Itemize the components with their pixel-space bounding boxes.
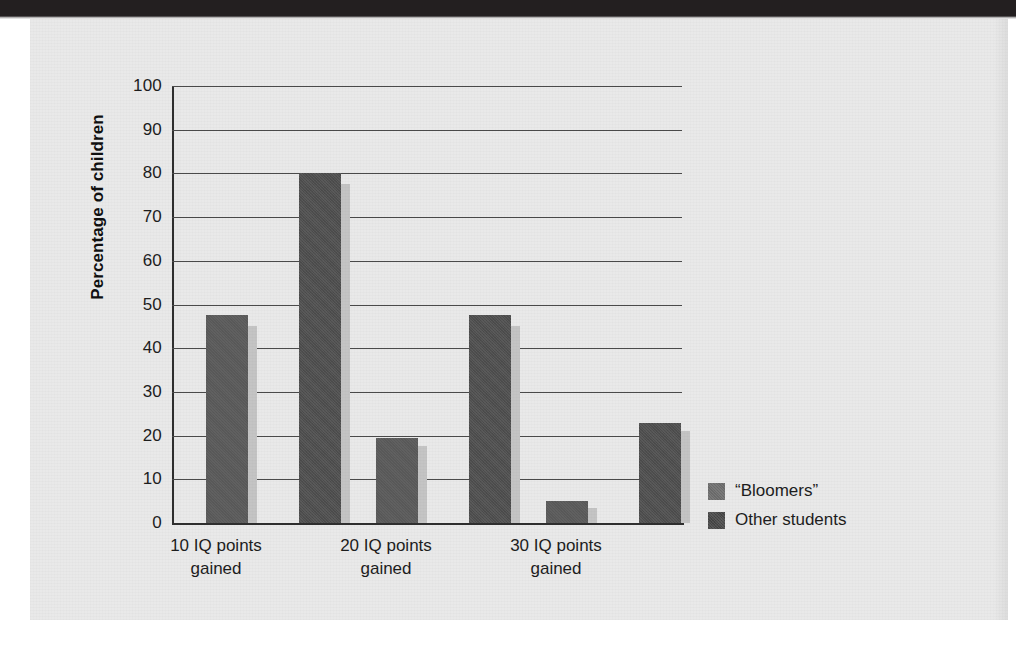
bar-shadow — [341, 184, 350, 523]
x-label-10-iq: 10 IQ points gained — [126, 535, 306, 581]
bar-chart: Percentage of children 100 90 80 70 60 5… — [30, 19, 1008, 620]
scan-artifact-band — [0, 0, 1016, 17]
x-axis-line — [172, 523, 684, 525]
y-tick-60: 60 — [116, 251, 162, 271]
x-label-10-iq-line1: 10 IQ points — [126, 535, 306, 558]
chart-legend: “Bloomers” Other students — [708, 481, 958, 539]
y-tick-70: 70 — [116, 207, 162, 227]
y-tick-50: 50 — [116, 295, 162, 315]
y-axis-title: Percentage of children — [88, 77, 108, 337]
bar-bloomers-30-iq[interactable] — [546, 501, 588, 523]
plot-area — [172, 86, 682, 523]
legend-item-other-students[interactable]: Other students — [708, 510, 958, 530]
bar-other-students-10-iq[interactable] — [299, 173, 341, 523]
bar-shadow — [681, 431, 690, 523]
bar-fill — [206, 315, 248, 523]
figure-panel: Percentage of children 100 90 80 70 60 5… — [30, 19, 1008, 620]
bar-fill — [546, 501, 588, 523]
x-label-20-iq: 20 IQ points gained — [296, 535, 476, 581]
y-tick-20: 20 — [116, 426, 162, 446]
y-tick-80: 80 — [116, 163, 162, 183]
y-axis-ticks: 100 90 80 70 60 50 40 30 20 10 0 — [106, 86, 162, 523]
other-students-swatch-icon — [708, 512, 725, 529]
x-label-20-iq-line2: gained — [296, 558, 476, 581]
bar-shadow — [248, 326, 257, 523]
bar-group-20-iq — [376, 86, 546, 523]
x-label-30-iq-line2: gained — [466, 558, 646, 581]
bloomers-swatch-icon — [708, 483, 725, 500]
bar-bloomers-20-iq[interactable] — [376, 438, 418, 523]
x-label-30-iq-line1: 30 IQ points — [466, 535, 646, 558]
bar-fill — [469, 315, 511, 523]
y-tick-100: 100 — [116, 76, 162, 96]
legend-label-other-students: Other students — [735, 510, 847, 530]
bar-bloomers-10-iq[interactable] — [206, 315, 248, 523]
bar-shadow — [418, 446, 427, 523]
x-label-10-iq-line2: gained — [126, 558, 306, 581]
y-tick-40: 40 — [116, 338, 162, 358]
bar-shadow — [588, 508, 597, 523]
x-label-30-iq: 30 IQ points gained — [466, 535, 646, 581]
y-tick-10: 10 — [116, 469, 162, 489]
bar-group-30-iq — [546, 86, 716, 523]
bar-group-10-iq — [206, 86, 376, 523]
bar-shadow — [511, 326, 520, 523]
bar-fill — [639, 423, 681, 524]
legend-label-bloomers: “Bloomers” — [735, 481, 818, 501]
bar-other-students-20-iq[interactable] — [469, 315, 511, 523]
x-label-20-iq-line1: 20 IQ points — [296, 535, 476, 558]
bar-fill — [299, 173, 341, 523]
bar-fill — [376, 438, 418, 523]
legend-item-bloomers[interactable]: “Bloomers” — [708, 481, 958, 501]
y-tick-90: 90 — [116, 120, 162, 140]
bar-other-students-30-iq[interactable] — [639, 423, 681, 524]
y-tick-0: 0 — [116, 513, 162, 533]
y-tick-30: 30 — [116, 382, 162, 402]
